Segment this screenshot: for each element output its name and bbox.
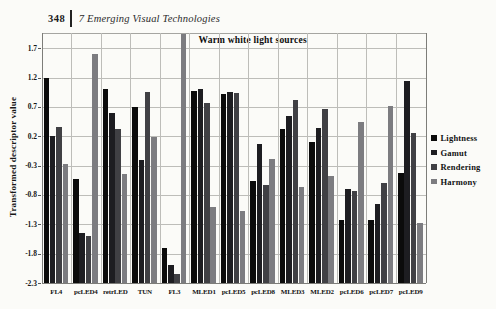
bar-harmony-pcLED4: [92, 54, 98, 283]
bar-harmony-TUN: [151, 137, 157, 283]
bar-harmony-pcLED7: [388, 106, 394, 283]
bar-lightness-MLED2: [309, 142, 315, 283]
bar-rendering-FL4: [56, 127, 62, 283]
bar-harmony-pcLED5: [240, 211, 246, 283]
bar-harmony-pcLED6: [358, 122, 364, 283]
y-tick-label: 1.7: [11, 44, 37, 53]
gridline-h: [42, 78, 426, 79]
y-tick-label: -1.3: [11, 220, 37, 229]
bar-lightness-pcLED6: [339, 220, 345, 283]
bar-rendering-FL3: [174, 274, 180, 283]
bar-lightness-pcLED4: [73, 179, 79, 283]
bar-gamut-pcLED7: [375, 204, 381, 283]
bar-rendering-pcLED8: [263, 185, 269, 283]
bar-lightness-retrLED: [103, 89, 109, 283]
bar-gamut-FL3: [168, 265, 174, 283]
gridline-v: [396, 33, 397, 283]
y-tick-mark: [38, 283, 41, 284]
scanned-book-page: { "page": { "header": { "page_number": "…: [0, 0, 496, 309]
gridline-v: [71, 33, 72, 283]
gridline-v: [248, 33, 249, 283]
legend-item-gamut: Gamut: [431, 148, 481, 158]
bar-gamut-pcLED4: [79, 233, 85, 283]
bar-lightness-pcLED5: [221, 94, 227, 283]
bar-gamut-MLED1: [198, 89, 204, 283]
gridline-h: [42, 48, 426, 49]
gridline-v: [337, 33, 338, 283]
y-tick-label: 1.2: [11, 73, 37, 82]
bar-harmony-MLED3: [299, 187, 305, 283]
bar-harmony-FL4: [63, 164, 69, 283]
bar-rendering-TUN: [145, 92, 151, 283]
legend-swatch-gamut: [431, 150, 437, 156]
y-tick-label: -0.3: [11, 161, 37, 170]
legend-label: Gamut: [441, 148, 468, 158]
bar-rendering-pcLED9: [411, 133, 417, 283]
legend-swatch-rendering: [431, 164, 437, 170]
bar-lightness-TUN: [132, 107, 138, 283]
axis-border-v: [426, 33, 427, 283]
y-tick-label: 0.2: [11, 132, 37, 141]
bar-harmony-retrLED: [122, 174, 128, 283]
bar-lightness-pcLED9: [398, 173, 404, 283]
bar-lightness-pcLED8: [250, 181, 256, 283]
bar-rendering-MLED1: [204, 103, 210, 283]
y-tick-label: -2.3: [11, 279, 37, 288]
bar-gamut-FL4: [50, 136, 56, 283]
bar-rendering-pcLED7: [381, 183, 387, 283]
bar-rendering-pcLED6: [352, 191, 358, 283]
plot-top-border: [42, 33, 426, 34]
bar-gamut-MLED2: [316, 128, 322, 283]
gridline-v: [160, 33, 161, 283]
legend-label: Rendering: [441, 162, 481, 172]
bar-rendering-MLED3: [293, 100, 299, 283]
bar-harmony-pcLED8: [269, 159, 275, 283]
bar-lightness-FL4: [44, 78, 50, 283]
bar-harmony-MLED1: [210, 207, 216, 283]
bar-lightness-MLED1: [191, 91, 197, 283]
bar-lightness-FL3: [162, 248, 168, 283]
bar-gamut-pcLED9: [404, 81, 410, 283]
y-tick-label: 0.7: [11, 102, 37, 111]
gridline-v: [219, 33, 220, 283]
gridline-v: [101, 33, 102, 283]
bar-lightness-MLED3: [280, 129, 286, 283]
legend-swatch-lightness: [431, 135, 437, 141]
bar-gamut-pcLED6: [345, 189, 351, 283]
bar-rendering-pcLED5: [234, 93, 240, 283]
legend-item-rendering: Rendering: [431, 162, 481, 172]
bar-rendering-MLED2: [322, 109, 328, 283]
chart-title: Warm white light sources: [199, 35, 307, 45]
bar-harmony-MLED2: [328, 176, 334, 283]
bar-rendering-pcLED4: [86, 236, 92, 283]
axis-border-v: [42, 33, 43, 283]
bar-gamut-MLED3: [286, 116, 292, 283]
legend: LightnessGamutRenderingHarmony: [431, 133, 481, 191]
gridline-v: [366, 33, 367, 283]
bar-gamut-pcLED8: [257, 144, 263, 283]
gridline-v: [307, 33, 308, 283]
bar-gamut-pcLED5: [227, 92, 233, 283]
legend-swatch-harmony: [431, 179, 437, 185]
gridline-v: [278, 33, 279, 283]
y-tick-label: -1.8: [11, 249, 37, 258]
bar-chart: Transformed descriptor value Warm white …: [0, 0, 496, 309]
bar-lightness-pcLED7: [368, 220, 374, 283]
legend-label: Harmony: [441, 177, 477, 187]
y-tick-label: -0.8: [11, 190, 37, 199]
bar-rendering-retrLED: [115, 129, 121, 283]
bar-gamut-TUN: [139, 160, 145, 283]
legend-item-lightness: Lightness: [431, 133, 481, 143]
x-category-label: pcLED9: [392, 288, 430, 297]
bar-harmony-pcLED9: [417, 223, 423, 283]
bar-gamut-retrLED: [109, 113, 115, 283]
y-axis-title: Transformed descriptor value: [8, 92, 18, 222]
legend-label: Lightness: [441, 133, 478, 143]
gridline-h: [42, 283, 426, 284]
legend-item-harmony: Harmony: [431, 177, 481, 187]
gridline-v: [189, 33, 190, 283]
bar-harmony-FL3: [181, 34, 187, 283]
gridline-v: [130, 33, 131, 283]
